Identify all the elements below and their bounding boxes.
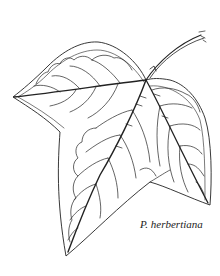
midrib (68, 80, 146, 252)
illustration-canvas: P. herbertiana (0, 0, 220, 276)
leaf-drawing (0, 0, 220, 276)
petiole (146, 35, 201, 80)
species-caption: P. herbertiana (140, 218, 203, 230)
